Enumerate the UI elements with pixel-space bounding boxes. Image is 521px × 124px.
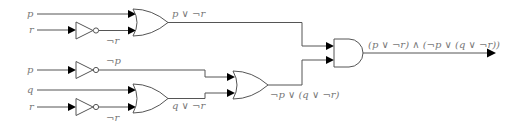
label-not-r-top: ¬r <box>106 35 120 46</box>
or-gate-top <box>133 9 168 36</box>
not-gate-p <box>76 62 99 79</box>
logic-circuit-diagram: p r ¬r p ∨ ¬r p ¬p q r ¬r q ∨ ¬r <box>0 0 521 124</box>
and-gate-final <box>334 39 363 67</box>
arrow-icon <box>227 73 235 81</box>
input-label-r-top: r <box>29 24 35 35</box>
input-label-r-bottom: r <box>29 101 35 112</box>
label-or-top: p ∨ ¬r <box>172 8 206 19</box>
label-and-final: (p ∨ ¬r) ∧ (¬p ∨ (q ∨ ¬r)) <box>368 39 500 50</box>
input-label-p-bottom: p <box>27 64 34 75</box>
wire-or-q-to-or-mid <box>168 93 228 99</box>
input-label-q: q <box>27 84 33 95</box>
arrow-icon <box>227 89 235 97</box>
arrow-icon <box>326 42 334 50</box>
arrow-icon <box>68 103 76 111</box>
arrow-icon <box>68 26 76 34</box>
label-or-q: q ∨ ¬r <box>172 100 206 111</box>
arrow-icon <box>326 56 334 64</box>
not-gate-r-bottom <box>76 99 99 116</box>
label-not-p: ¬p <box>106 55 121 66</box>
or-gate-mid <box>233 71 268 99</box>
wire-or-mid-to-and <box>268 60 327 85</box>
label-not-r-bottom: ¬r <box>106 112 120 123</box>
or-gate-q <box>133 84 168 113</box>
arrow-icon <box>68 66 76 74</box>
label-or-mid: ¬p ∨ (q ∨ ¬r) <box>270 89 340 100</box>
wire-or-top-to-and <box>168 23 327 47</box>
wire-not-p-to-or-mid <box>99 70 228 77</box>
not-gate-r-top <box>76 22 99 39</box>
input-label-p-top: p <box>27 8 34 19</box>
